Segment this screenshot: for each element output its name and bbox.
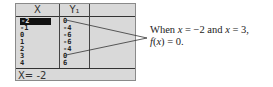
annotation-line-1: When x = −2 and x = 3, [150,24,249,36]
annotation-text: When x = −2 and x = 3, f(x) = 0. [150,24,249,48]
annotation-line-2: f(x) = 0. [150,36,249,48]
